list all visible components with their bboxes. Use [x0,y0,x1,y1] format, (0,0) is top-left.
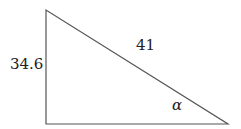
right-triangle [46,10,228,124]
angle-alpha-label: α [172,96,182,114]
vertical-side-label: 34.6 [10,55,43,73]
hypotenuse-label: 41 [136,36,155,54]
triangle-diagram: 34.6 41 α [0,0,241,129]
